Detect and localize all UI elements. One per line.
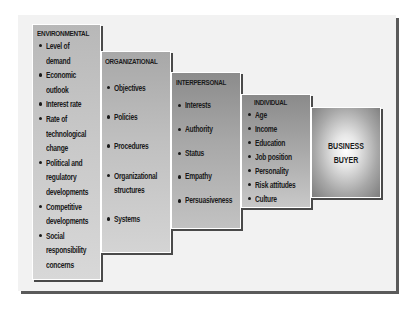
- factor-item: concerns: [37, 258, 100, 273]
- environmental-list: Level ofdemandEconomicoutlookInterest ra…: [37, 39, 100, 273]
- factor-item: structures: [105, 183, 170, 198]
- factor-text: Personality: [255, 164, 288, 178]
- factor-text: responsibility: [46, 243, 86, 258]
- factor-item: Interests: [176, 99, 240, 111]
- business-buyer-box: BUSINESS BUYER: [311, 107, 381, 198]
- bullet-icon: [39, 44, 42, 47]
- organizational-title: ORGANIZATIONAL: [105, 57, 158, 67]
- bullet-icon: [178, 104, 181, 107]
- factor-item: Interest rate: [37, 97, 100, 112]
- bullet-icon: [248, 197, 251, 200]
- bullet-icon: [107, 217, 110, 220]
- bullet-icon: [39, 102, 42, 105]
- factor-item: responsibility: [37, 243, 100, 258]
- factor-item: regulatory: [37, 170, 100, 185]
- factor-item: Authority: [176, 123, 240, 135]
- factor-item: Policies: [105, 110, 170, 125]
- bullet-icon: [107, 86, 110, 89]
- factor-item: Risk attitudes: [246, 178, 310, 192]
- bullet-icon: [248, 155, 251, 158]
- factor-text: Economic: [46, 68, 76, 83]
- environmental-box: ENVIRONMENTAL Level ofdemandEconomicoutl…: [32, 24, 101, 280]
- factor-text: Procedures: [114, 139, 148, 154]
- bullet-icon: [178, 199, 181, 202]
- factor-text: Rate of: [46, 112, 67, 127]
- factor-item: developments: [37, 214, 100, 229]
- factor-item: Level of: [37, 39, 100, 54]
- factor-item: demand: [37, 54, 100, 69]
- factor-item: Economic: [37, 68, 100, 83]
- bullet-icon: [39, 234, 42, 237]
- bullet-icon: [178, 175, 181, 178]
- factor-text: Political and: [46, 156, 82, 171]
- factor-item: Systems: [105, 212, 170, 227]
- individual-box: INDIVIDUAL AgeIncomeEducationJob positio…: [241, 94, 311, 208]
- interpersonal-box: INTERPERSONAL InterestsAuthorityStatusEm…: [171, 72, 241, 229]
- factor-text: Income: [255, 122, 277, 136]
- factor-text: Level of: [46, 39, 69, 54]
- interpersonal-list: InterestsAuthorityStatusEmpathyPersuasiv…: [176, 99, 240, 206]
- factor-text: Social: [46, 229, 64, 244]
- factor-item: outlook: [37, 83, 100, 98]
- organizational-box: ORGANIZATIONAL ObjectivesPoliciesProcedu…: [101, 51, 171, 253]
- interpersonal-title: INTERPERSONAL: [176, 78, 228, 88]
- factor-text: Authority: [185, 123, 213, 135]
- factor-item: Social: [37, 229, 100, 244]
- factor-text: Education: [255, 136, 285, 150]
- bullet-icon: [107, 144, 110, 147]
- factor-text: Status: [185, 147, 204, 159]
- bullet-icon: [39, 73, 42, 76]
- factor-text: regulatory: [46, 170, 76, 185]
- factor-item: Political and: [37, 156, 100, 171]
- factor-item: Rate of: [37, 112, 100, 127]
- bullet-icon: [107, 174, 110, 177]
- factor-text: developments: [46, 185, 88, 200]
- factor-text: Risk attitudes: [255, 178, 296, 192]
- factor-item: Personality: [246, 164, 310, 178]
- factor-item: Culture: [246, 192, 310, 206]
- factor-text: Interest rate: [46, 97, 81, 112]
- factor-text: Competitive: [46, 200, 82, 215]
- factor-text: Systems: [114, 212, 140, 227]
- factor-item: Job position: [246, 150, 310, 164]
- business-buyer-title: BUSINESS BUYER: [328, 139, 364, 167]
- factor-text: Interests: [185, 99, 211, 111]
- bullet-icon: [107, 115, 110, 118]
- factor-item: Income: [246, 122, 310, 136]
- factor-text: outlook: [46, 83, 69, 98]
- factor-text: demand: [46, 54, 70, 69]
- factor-text: Persuasiveness: [185, 194, 232, 206]
- factor-item: Age: [246, 108, 310, 122]
- bullet-icon: [39, 161, 42, 164]
- factor-text: Culture: [255, 192, 277, 206]
- bullet-icon: [39, 205, 42, 208]
- bullet-icon: [248, 141, 251, 144]
- factor-item: Competitive: [37, 200, 100, 215]
- factor-item: Empathy: [176, 170, 240, 182]
- factor-item: Persuasiveness: [176, 194, 240, 206]
- factor-item: Objectives: [105, 81, 170, 96]
- factor-text: change: [46, 141, 68, 156]
- organizational-list: ObjectivesPoliciesProceduresOrganization…: [105, 81, 170, 227]
- bullet-icon: [178, 128, 181, 131]
- factor-item: Education: [246, 136, 310, 150]
- bullet-icon: [248, 183, 251, 186]
- bullet-icon: [248, 127, 251, 130]
- bullet-icon: [39, 117, 42, 120]
- factor-text: concerns: [46, 258, 74, 273]
- environmental-title: ENVIRONMENTAL: [37, 29, 89, 39]
- factor-item: Procedures: [105, 139, 170, 154]
- factor-item: developments: [37, 185, 100, 200]
- factor-text: developments: [46, 214, 88, 229]
- factor-item: change: [37, 141, 100, 156]
- bullet-icon: [178, 152, 181, 155]
- individual-list: AgeIncomeEducationJob positionPersonalit…: [246, 108, 310, 206]
- factor-text: structures: [114, 183, 144, 198]
- factor-item: technological: [37, 127, 100, 142]
- factor-text: Objectives: [114, 81, 146, 96]
- factor-text: Empathy: [185, 170, 212, 182]
- factor-text: Job position: [255, 150, 292, 164]
- factor-text: Policies: [114, 110, 137, 125]
- bullet-icon: [248, 113, 251, 116]
- factor-text: Age: [255, 108, 267, 122]
